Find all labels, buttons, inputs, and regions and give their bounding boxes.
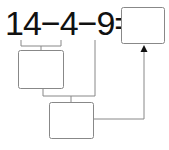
connector-to-answer bbox=[93, 50, 144, 119]
diagram-lines bbox=[0, 0, 169, 150]
bracket-step1-9 bbox=[43, 88, 95, 102]
arrow-up-icon bbox=[141, 45, 148, 52]
bracket-14-4 bbox=[21, 40, 61, 50]
step1-box[interactable] bbox=[19, 51, 64, 89]
step2-box[interactable] bbox=[50, 103, 94, 139]
answer-box[interactable] bbox=[122, 8, 165, 44]
